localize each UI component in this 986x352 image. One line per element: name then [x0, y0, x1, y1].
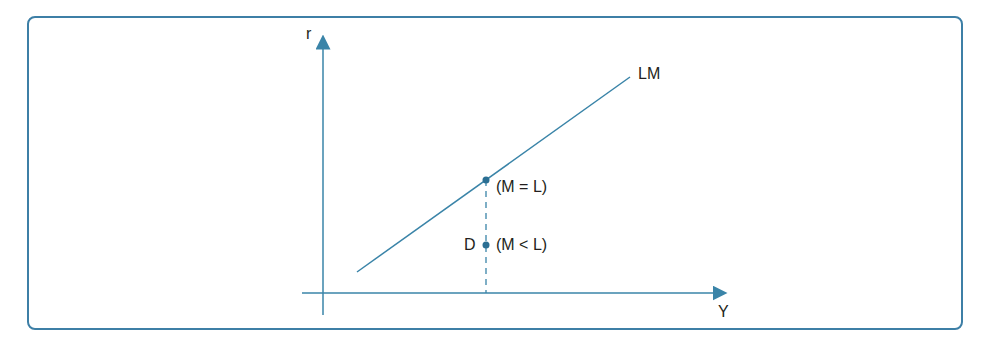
lm-curve: [357, 77, 630, 272]
equilibrium-point: [483, 177, 490, 184]
point-1-label: (M = L): [496, 179, 547, 195]
curve-label: LM: [638, 66, 660, 82]
y-axis-label: r: [306, 26, 311, 42]
x-axis-label: Y: [718, 304, 729, 320]
point-2-label: (M < L): [496, 237, 547, 253]
point-d-name: D: [464, 237, 476, 253]
lm-diagram: [0, 0, 986, 352]
point-d: [483, 242, 490, 249]
